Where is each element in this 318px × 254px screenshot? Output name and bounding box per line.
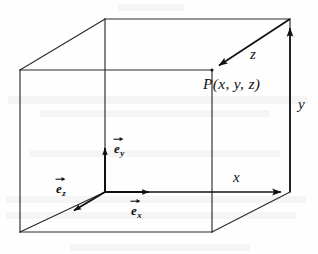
cube-edge-depth-bottom-left: [20, 192, 105, 232]
vector-arrow-group-ez: e: [56, 181, 62, 195]
axis-label-x: x: [233, 170, 240, 185]
unit-vector-label-ex: ex: [131, 203, 142, 220]
over-arrow-icon: [113, 136, 124, 141]
axis-label-z: z: [250, 47, 256, 62]
point-P-marker: [211, 69, 214, 72]
axis-label-y: y: [298, 97, 305, 112]
cube-edge-depth-top-left: [20, 19, 105, 70]
unit-vector-label-ez: ez: [56, 181, 66, 198]
coordinate-cube-drawing: [0, 0, 318, 254]
unit-vector-base-ey: e: [114, 141, 120, 156]
cube-edge-depth-bottom-right: [212, 192, 290, 232]
over-arrow-icon: [130, 198, 141, 203]
point-label-P: P(x, y, z): [203, 76, 260, 92]
unit-vector-ez: [74, 192, 105, 211]
coordinate-axes: [105, 19, 290, 192]
unit-vector-base-ez: e: [56, 181, 62, 196]
unit-vector-base-ex: e: [131, 203, 137, 218]
vector-arrow-group-ex: e: [131, 203, 137, 217]
unit-vector-subscript-ex: x: [137, 210, 142, 220]
unit-vector-subscript-ey: y: [120, 148, 124, 158]
figure-canvas: z P(x, y, z) y x ey ex ez: [0, 0, 318, 254]
unit-vector-label-ey: ey: [114, 141, 124, 158]
unit-vector-subscript-ez: z: [62, 188, 66, 198]
vector-arrow-group-ey: e: [114, 141, 120, 155]
over-arrow-icon: [55, 176, 66, 181]
